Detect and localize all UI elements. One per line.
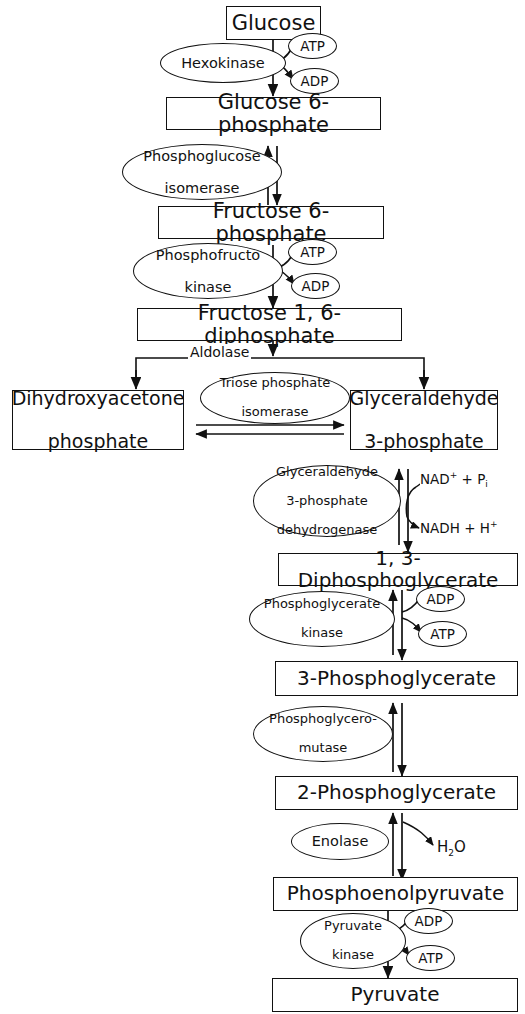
metabolite-box-dihydroxyacetone-phosphate: Dihydroxyacetone phosphate bbox=[12, 390, 184, 450]
chemical-label-nad-plus-pi: NAD+ + Pi bbox=[420, 470, 488, 489]
metabolite-label-glucose-6-phosphate: Glucose 6-phosphate bbox=[167, 91, 380, 136]
metabolite-label-glyceraldehyde-3-phosphate: Glyceraldehyde 3-phosphate bbox=[342, 388, 507, 452]
metabolite-box-fructose-6-phosphate: Fructose 6-phosphate bbox=[158, 206, 384, 239]
cofactor-ellipse-adp-pyruvate-kinase: ADP bbox=[404, 908, 453, 934]
cofactor-ellipse-atp-phosphofructokinase: ATP bbox=[288, 239, 337, 265]
cofactor-ellipse-atp-pyruvate-kinase: ATP bbox=[406, 945, 455, 971]
metabolite-label-phosphoenolpyruvate: Phosphoenolpyruvate bbox=[283, 883, 508, 905]
enzyme-ellipse-pyruvate-kinase: Pyruvate kinase bbox=[300, 913, 406, 969]
cofactor-ellipse-adp-phosphoglycerate-kinase: ADP bbox=[416, 586, 465, 612]
enzyme-ellipse-triose-phosphate-isomerase: Triose phosphate isomerase bbox=[200, 372, 350, 424]
glycolysis-diagram: Glucose Glucose 6-phosphate Fructose 6-p… bbox=[0, 0, 525, 1014]
enzyme-label-glyceraldehyde-3-phosphate-dehydrogenase: Glyceraldehyde 3-phosphate dehydrogenase bbox=[264, 465, 390, 538]
enzyme-label-enolase: Enolase bbox=[306, 833, 375, 849]
metabolite-label-1-3-diphosphoglycerate: 1, 3-Diphosphoglycerate bbox=[279, 548, 517, 591]
enzyme-label-phosphoglycerate-kinase: Phosphoglycerate kinase bbox=[252, 597, 392, 641]
enzyme-label-hexokinase: Hexokinase bbox=[175, 55, 271, 71]
metabolite-label-dihydroxyacetone-phosphate: Dihydroxyacetone phosphate bbox=[4, 388, 193, 452]
enzyme-label-phosphoglyceromutase: Phosphoglycero- mutase bbox=[257, 712, 389, 756]
metabolite-label-fructose-1-6-diphosphate: Fructose 1, 6-diphosphate bbox=[138, 302, 401, 347]
metabolite-box-1-3-diphosphoglycerate: 1, 3-Diphosphoglycerate bbox=[278, 553, 518, 586]
chemical-label-water: H2O bbox=[437, 838, 466, 858]
metabolite-label-fructose-6-phosphate: Fructose 6-phosphate bbox=[159, 200, 383, 245]
enzyme-ellipse-glyceraldehyde-3-phosphate-dehydrogenase: Glyceraldehyde 3-phosphate dehydrogenase bbox=[253, 465, 401, 537]
metabolite-label-3-phosphoglycerate: 3-Phosphoglycerate bbox=[293, 668, 500, 690]
metabolite-box-fructose-1-6-diphosphate: Fructose 1, 6-diphosphate bbox=[137, 308, 402, 341]
enzyme-ellipse-hexokinase: Hexokinase bbox=[160, 43, 286, 83]
enzyme-ellipse-phosphoglycerate-kinase: Phosphoglycerate kinase bbox=[249, 591, 395, 647]
enzyme-ellipse-enolase: Enolase bbox=[291, 823, 389, 860]
metabolite-box-glyceraldehyde-3-phosphate: Glyceraldehyde 3-phosphate bbox=[350, 390, 498, 450]
cofactor-ellipse-atp-hexokinase: ATP bbox=[288, 33, 337, 59]
enzyme-label-phosphofructokinase: Phosphofructo kinase bbox=[144, 247, 272, 296]
metabolite-box-3-phosphoglycerate: 3-Phosphoglycerate bbox=[275, 661, 518, 696]
metabolite-label-pyruvate: Pyruvate bbox=[346, 984, 443, 1006]
metabolite-box-glucose-6-phosphate: Glucose 6-phosphate bbox=[166, 97, 381, 130]
enzyme-label-phosphoglucose-isomerase: Phosphoglucose isomerase bbox=[131, 148, 272, 197]
enzyme-ellipse-phosphofructokinase: Phosphofructo kinase bbox=[133, 243, 283, 299]
metabolite-box-pyruvate: Pyruvate bbox=[272, 978, 518, 1012]
enzyme-ellipse-phosphoglyceromutase: Phosphoglycero- mutase bbox=[253, 706, 393, 762]
enzyme-label-triose-phosphate-isomerase: Triose phosphate isomerase bbox=[208, 376, 343, 420]
metabolite-box-2-phosphoglycerate: 2-Phosphoglycerate bbox=[275, 776, 518, 810]
enzyme-label-aldolase: Aldolase bbox=[188, 344, 251, 360]
enzyme-ellipse-phosphoglucose-isomerase: Phosphoglucose isomerase bbox=[122, 144, 282, 200]
enzyme-label-pyruvate-kinase: Pyruvate kinase bbox=[312, 919, 394, 963]
metabolite-label-2-phosphoglycerate: 2-Phosphoglycerate bbox=[293, 782, 500, 804]
cofactor-ellipse-atp-phosphoglycerate-kinase: ATP bbox=[418, 621, 467, 647]
metabolite-label-glucose: Glucose bbox=[228, 12, 320, 35]
chemical-label-nadh-plus-h: NADH + H+ bbox=[420, 519, 497, 536]
cofactor-ellipse-adp-hexokinase: ADP bbox=[290, 68, 339, 94]
metabolite-box-phosphoenolpyruvate: Phosphoenolpyruvate bbox=[273, 877, 518, 911]
cofactor-ellipse-adp-phosphofructokinase: ADP bbox=[291, 273, 340, 299]
